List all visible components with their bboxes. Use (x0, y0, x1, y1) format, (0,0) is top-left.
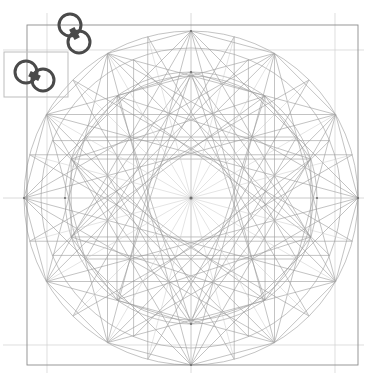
chord (71, 237, 117, 300)
axis-node (190, 364, 192, 366)
center-node (189, 196, 192, 199)
axis-node (357, 197, 359, 199)
chord (265, 96, 311, 159)
chord (71, 96, 117, 159)
axis-node (64, 197, 66, 199)
geometric-construction-drawing[interactable] (0, 0, 375, 373)
construction-canvas[interactable]: Geometric Construction Diagram (0, 0, 375, 373)
axis-node (190, 323, 192, 325)
link-marker-upper[interactable] (59, 14, 90, 53)
axis-node (190, 71, 192, 73)
axis-node (190, 30, 192, 32)
chord (265, 237, 311, 300)
link-marker-lower[interactable] (15, 61, 54, 91)
axis-node (316, 197, 318, 199)
guide-lines-layer (3, 13, 364, 373)
axis-node (23, 197, 25, 199)
